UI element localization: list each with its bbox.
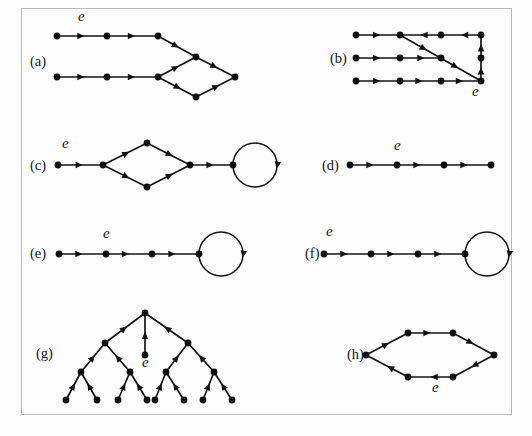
graph-node-g_ll: [78, 369, 85, 376]
edge-label-e-h-0: e: [432, 379, 439, 395]
graph-node-d1: [347, 162, 354, 169]
arrowhead-c1-c2-0: [76, 162, 83, 169]
arrowhead-a1-a2-0: [77, 33, 84, 40]
self-loop-c-0: [233, 143, 277, 187]
arrowhead-b4-b3-0: [461, 32, 468, 39]
graph-node-g_rrr: [229, 397, 236, 404]
arrowhead-g_r-g_root-0: [164, 327, 172, 334]
self-loop-f-0: [465, 232, 509, 276]
self-loop-arrowhead-e-0: [241, 250, 247, 258]
panel-h-nodes: [363, 330, 498, 381]
arrowhead-h2-h3-0: [423, 330, 430, 337]
graph-node-c2: [100, 162, 107, 169]
arrowhead-a4-a5-0: [77, 74, 84, 81]
graph-node-e1: [56, 251, 63, 258]
graph-node-c3: [144, 140, 151, 147]
graph-node-a7: [193, 54, 200, 61]
figure-canvas: (a)e(b)e(c)e(d)e(e)e(f)e(g)e(h)e: [0, 0, 532, 436]
arrowhead-b6-b7-0: [417, 55, 424, 62]
arrowhead-f1-f2-0: [340, 251, 347, 258]
graph-node-f1: [321, 251, 328, 258]
panel-d: (d)e: [322, 137, 494, 174]
graph-node-b10: [438, 78, 445, 85]
graph-node-d2: [394, 162, 401, 169]
panel-label-g: (g): [36, 345, 53, 362]
graph-node-a8: [193, 94, 200, 101]
graph-node-f4: [462, 251, 469, 258]
graph-node-g_lll: [63, 397, 70, 404]
panel-g-edges: [66, 313, 232, 400]
graph-node-c5: [187, 162, 194, 169]
arrowhead-d3-d4-0: [460, 162, 467, 169]
graph-node-h6: [405, 374, 412, 381]
arrowhead-b11-b12-0: [478, 67, 485, 74]
graph-node-b6: [397, 55, 404, 62]
panel-label-a: (a): [30, 53, 46, 70]
graph-node-b3: [438, 32, 445, 39]
arrowhead-e2-e3-0: [122, 251, 129, 258]
graph-node-g_l: [102, 340, 109, 347]
graph-node-e3: [149, 251, 156, 258]
graph-node-b4: [478, 32, 485, 39]
edge-label-e-b-0: e: [472, 83, 479, 99]
panel-e: (e)e: [30, 225, 247, 276]
graph-node-g_rlr: [181, 397, 188, 404]
graph-node-h3: [450, 330, 457, 337]
arrowhead-a2-a3-0: [128, 33, 135, 40]
graph-node-d3: [441, 162, 448, 169]
edge-label-e-e-0: e: [103, 225, 110, 241]
arrowhead-d1-d2-0: [366, 162, 373, 169]
graph-node-g_lrr: [144, 397, 151, 404]
graph-node-a5: [104, 74, 111, 81]
graph-node-g_rr: [211, 369, 218, 376]
panel-a-edges: [57, 33, 235, 97]
graph-node-g_root: [142, 310, 149, 317]
graph-node-b9: [397, 78, 404, 85]
arrowhead-a5-a6-0: [128, 74, 135, 81]
panel-label-f: (f): [305, 245, 320, 262]
panel-h: (h)e: [347, 330, 497, 395]
edge-label-e-f-0: e: [326, 223, 333, 239]
graph-node-b8: [353, 78, 360, 85]
graph-node-a1: [54, 33, 61, 40]
arrowhead-b1-b2-0: [373, 32, 380, 39]
graph-node-e4: [196, 251, 203, 258]
graph-node-b2: [397, 32, 404, 39]
arrowhead-f2-f3-0: [387, 251, 394, 258]
panel-d-edges: [350, 162, 491, 169]
edge-label-e-a-0: e: [78, 8, 85, 24]
panel-b-edges: [356, 32, 484, 85]
graph-node-a2: [104, 33, 111, 40]
panel-h-edges: [366, 330, 494, 381]
arrowhead-b3-b2-0: [421, 32, 428, 39]
arrowhead-g_e-g_root-0: [142, 332, 149, 339]
graph-node-d4: [488, 162, 495, 169]
arrowhead-f3-f4-0: [434, 251, 441, 258]
self-loop-e-0: [199, 232, 243, 276]
graph-node-g_lrl: [115, 397, 122, 404]
graph-node-g_lr: [127, 369, 134, 376]
graph-node-a9: [232, 74, 239, 81]
graph-node-b5: [353, 55, 360, 62]
graph-node-f2: [368, 251, 375, 258]
arrowhead-b9-b10-0: [415, 78, 422, 85]
arrowhead-e1-e2-0: [75, 251, 82, 258]
arrowhead-b5-b6-0: [373, 55, 380, 62]
panel-label-e: (e): [30, 245, 46, 262]
panel-c: (c)e: [30, 135, 281, 190]
graph-node-a4: [54, 74, 61, 81]
edge-label-e-d-0: e: [394, 137, 401, 153]
panel-label-h: (h): [347, 346, 364, 363]
panel-c-edges: [58, 143, 281, 187]
panel-a: (a)e: [30, 8, 238, 100]
arrowhead-c5-c6-0: [206, 162, 213, 169]
graph-node-b1: [353, 32, 360, 39]
graph-node-h2: [405, 330, 412, 337]
panel-label-b: (b): [330, 50, 347, 67]
graph-node-h5: [450, 374, 457, 381]
graph-node-b12: [478, 55, 485, 62]
panel-label-d: (d): [322, 157, 339, 174]
edge-label-e-c-0: e: [62, 135, 69, 151]
graph-node-g_llr: [94, 397, 101, 404]
graph-node-e2: [103, 251, 110, 258]
